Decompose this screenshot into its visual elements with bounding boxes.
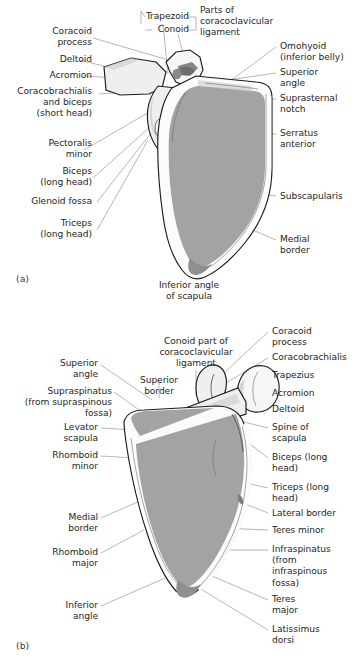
label-coracoid-process: Coracoid process — [10, 26, 92, 48]
label-supraspinatus: Supraspinatus (from supraspinous fossa) — [2, 386, 112, 420]
label-serratus-anterior: Serratus anterior — [280, 128, 360, 150]
label-medial-border-b: Medial border — [12, 512, 98, 534]
label-suprasternal-notch: Suprasternal notch — [280, 93, 360, 115]
label-inferior-angle-b: Inferior angle — [12, 600, 98, 622]
label-trapezius: Trapezius — [272, 370, 360, 381]
panel-letter-a: (a) — [16, 273, 29, 284]
label-biceps-long-head: Biceps (long head) — [10, 166, 92, 188]
label-superior-angle: Superior angle — [280, 67, 360, 89]
label-lateral-border: Lateral border — [272, 508, 360, 519]
label-pectoralis-minor: Pectoralis minor — [10, 138, 92, 160]
label-spine-of-scapula: Spine of scapula — [272, 422, 360, 444]
label-superior-angle-b: Superior angle — [12, 358, 98, 380]
label-trapezoid: Trapezoid — [144, 11, 189, 22]
label-conoid-part-of-coracoclavicular-ligament: Conoid part of coracoclavicular ligament — [146, 336, 246, 370]
label-coracobrachialis: Coracobrachialis — [272, 352, 361, 363]
label-triceps-long-head-b: Triceps (long head) — [272, 482, 360, 504]
label-teres-major: Teres major — [272, 594, 360, 616]
label-rhomboid-minor: Rhomboid minor — [12, 450, 98, 472]
label-medial-border: Medial border — [280, 234, 360, 256]
label-coracoid-process-b: Coracoid process — [272, 326, 360, 348]
label-biceps-long-head-b: Biceps (long head) — [272, 452, 360, 474]
label-teres-minor: Teres minor — [272, 525, 360, 536]
label-parts-of-coracoclavicular-ligament: Parts of coracoclavicular ligament — [200, 5, 288, 39]
panel-a-anterior-scapula: Coracoid process Deltoid Acromion Coraco… — [0, 0, 361, 318]
label-deltoid-b: Deltoid — [272, 404, 360, 415]
label-superior-border: Superior border — [120, 375, 198, 397]
label-omohyoid: Omohyoid (inferior belly) — [280, 41, 360, 63]
label-conoid: Conoid — [144, 24, 189, 35]
label-triceps-long-head: Triceps (long head) — [10, 218, 92, 240]
label-infraspinatus: Infraspinatus (from infraspinous fossa) — [272, 544, 360, 589]
label-subscapularis: Subscapularis — [280, 191, 360, 202]
panel-letter-b: (b) — [16, 640, 29, 651]
label-deltoid: Deltoid — [10, 54, 92, 65]
label-inferior-angle-of-scapula: Inferior angle of scapula — [143, 280, 235, 302]
label-rhomboid-major: Rhomboid major — [12, 547, 98, 569]
panel-b-posterior-scapula: Superior angle Supraspinatus (from supra… — [0, 318, 361, 669]
label-acromion-b: Acromion — [272, 388, 360, 399]
label-coracobrachialis-and-biceps: Coracobrachialis and biceps (short head) — [2, 86, 92, 120]
label-levator-scapula: Levator scapula — [12, 422, 98, 444]
label-latissimus-dorsi: Latissimus dorsi — [272, 624, 360, 646]
label-acromion: Acromion — [10, 70, 92, 81]
label-glenoid-fossa: Glenoid fossa — [4, 196, 92, 207]
anatomy-figure: Coracoid process Deltoid Acromion Coraco… — [0, 0, 361, 669]
